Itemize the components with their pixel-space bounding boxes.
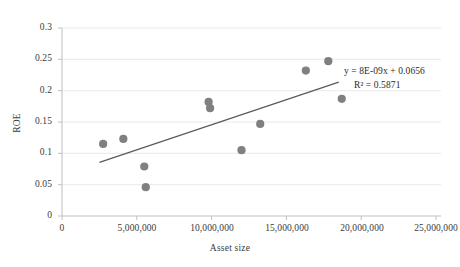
data-point — [302, 67, 310, 75]
y-tick-label-0.1: 0.1 — [22, 147, 52, 157]
x-tick-label-10000000: 10,000,000 — [173, 223, 251, 233]
gridlines — [62, 28, 441, 185]
data-point — [256, 120, 264, 128]
y-tick-label-0.05: 0.05 — [22, 179, 52, 189]
r-squared-label: R² = 0.5871 — [354, 80, 401, 90]
data-point — [142, 183, 150, 191]
x-tick-marks — [62, 216, 436, 220]
data-points — [99, 57, 346, 191]
scatter-chart: 0.3 0.25 0.2 0.15 0.1 0.05 0 0 5,000,000… — [0, 0, 460, 267]
data-point — [338, 95, 346, 103]
data-point — [206, 104, 214, 112]
trendline-equation-label: y = 8E-09x + 0.0656 — [344, 66, 425, 76]
data-point — [99, 140, 107, 148]
x-tick-label-15000000: 15,000,000 — [248, 223, 326, 233]
y-tick-label-0.3: 0.3 — [22, 22, 52, 32]
x-tick-label-20000000: 20,000,000 — [323, 223, 401, 233]
y-axis-title: ROE — [12, 100, 22, 146]
data-point — [324, 57, 332, 65]
data-point — [119, 135, 127, 143]
data-point — [140, 162, 148, 170]
y-tick-label-0: 0 — [22, 210, 52, 220]
x-tick-label-5000000: 5,000,000 — [101, 223, 173, 233]
y-tick-label-0.15: 0.15 — [22, 116, 52, 126]
x-tick-label-0: 0 — [42, 223, 82, 233]
x-axis-title: Asset size — [0, 243, 460, 253]
y-tick-marks — [58, 28, 62, 216]
y-tick-label-0.2: 0.2 — [22, 85, 52, 95]
data-point — [237, 146, 245, 154]
y-tick-label-0.25: 0.25 — [22, 53, 52, 63]
x-tick-label-25000000: 25,000,000 — [397, 223, 460, 233]
